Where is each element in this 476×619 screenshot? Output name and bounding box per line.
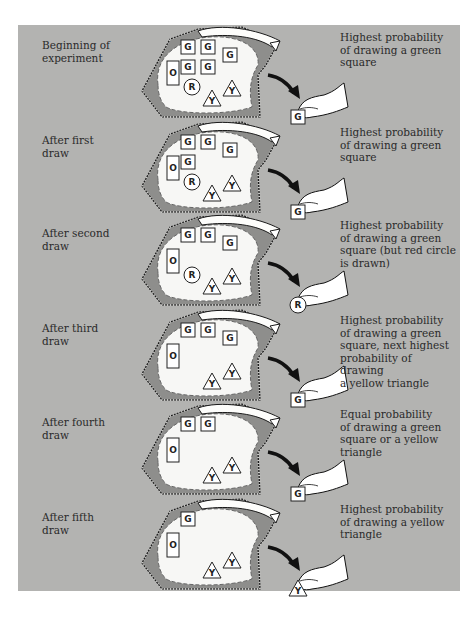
svg-text:G: G bbox=[184, 62, 191, 72]
svg-text:G: G bbox=[184, 514, 191, 524]
probability-description: Highest probabilityof drawing a greensqu… bbox=[340, 219, 458, 269]
description-line: Highest probability bbox=[340, 503, 458, 516]
probability-description: Highest probabilityof drawing a greensqu… bbox=[340, 314, 458, 389]
stage-label-line: Beginning of bbox=[42, 39, 132, 52]
svg-text:G: G bbox=[184, 230, 191, 240]
draw-stage-row-2: After firstdraw GGGGORYYG Highest probab… bbox=[18, 120, 460, 215]
svg-text:G: G bbox=[204, 325, 211, 335]
green-square-token: G bbox=[223, 48, 237, 62]
draw-arrow-icon bbox=[268, 452, 300, 476]
svg-text:O: O bbox=[169, 256, 177, 266]
green-square-token: G bbox=[201, 60, 215, 74]
svg-text:Y: Y bbox=[228, 369, 236, 379]
stage-label-line: draw bbox=[42, 429, 132, 442]
draw-arrow-icon bbox=[268, 358, 300, 382]
orange-rectangle-token: O bbox=[167, 249, 179, 273]
draw-arrow-icon bbox=[268, 263, 300, 287]
orange-rectangle-token: O bbox=[167, 438, 179, 462]
stage-label: After fourthdraw bbox=[42, 416, 132, 441]
bag-illustration: GGGOYYG bbox=[140, 308, 340, 403]
svg-text:G: G bbox=[184, 137, 191, 147]
description-line: square (but red circle bbox=[340, 244, 458, 257]
hand-icon bbox=[298, 271, 348, 306]
green-square-token: G bbox=[223, 236, 237, 250]
svg-text:G: G bbox=[226, 238, 233, 248]
stage-label-line: After second bbox=[42, 227, 132, 240]
draw-stage-row-6: After fifthdraw GOYYY Highest probabilit… bbox=[18, 497, 460, 592]
bag-illustration: GOYYY bbox=[140, 497, 340, 592]
green-square-token: G bbox=[223, 143, 237, 157]
probability-description: Highest probabilityof drawing a greensqu… bbox=[340, 126, 458, 164]
svg-text:Y: Y bbox=[208, 568, 216, 578]
stage-label-line: draw bbox=[42, 524, 132, 537]
svg-text:G: G bbox=[184, 42, 191, 52]
orange-rectangle-token: O bbox=[167, 533, 179, 557]
description-line: of drawing a green bbox=[340, 44, 458, 57]
green-square-token: G bbox=[201, 228, 215, 242]
description-line: Highest probability bbox=[340, 126, 458, 139]
description-line: a yellow triangle bbox=[340, 377, 458, 390]
svg-text:G: G bbox=[226, 145, 233, 155]
description-line: is drawn) bbox=[340, 257, 458, 270]
green-square-token: G bbox=[181, 155, 195, 169]
green-square-token: G bbox=[181, 323, 195, 337]
green-square-token: G bbox=[201, 135, 215, 149]
figure-panel: Beginning ofexperiment GGGGGORYYG Highes… bbox=[18, 25, 460, 591]
svg-text:G: G bbox=[184, 419, 191, 429]
stage-label-line: draw bbox=[42, 335, 132, 348]
description-line: probability of drawing bbox=[340, 352, 458, 377]
svg-text:O: O bbox=[169, 163, 177, 173]
red-circle-token: R bbox=[184, 267, 200, 283]
green-square-token: G bbox=[181, 40, 195, 54]
bag-illustration: GGGORYYR bbox=[140, 213, 340, 308]
red-circle-token: R bbox=[184, 79, 200, 95]
orange-rectangle-token: O bbox=[167, 61, 179, 85]
svg-text:Y: Y bbox=[228, 86, 236, 96]
draw-stage-row-5: After fourthdraw GGOYYG Equal probabilit… bbox=[18, 402, 460, 497]
probability-description: Highest probabilityof drawing a greensqu… bbox=[340, 31, 458, 69]
description-line: square bbox=[340, 151, 458, 164]
green-square-token: G bbox=[181, 228, 195, 242]
description-line: Equal probability bbox=[340, 408, 458, 421]
description-line: of drawing a yellow bbox=[340, 516, 458, 529]
svg-text:O: O bbox=[169, 540, 177, 550]
svg-text:G: G bbox=[204, 230, 211, 240]
bag-illustration: GGGGORYYG bbox=[140, 120, 340, 215]
stage-label: After seconddraw bbox=[42, 227, 132, 252]
stage-label: After fifthdraw bbox=[42, 511, 132, 536]
green-square-token: G bbox=[201, 323, 215, 337]
svg-text:G: G bbox=[204, 137, 211, 147]
description-line: square or a yellow bbox=[340, 433, 458, 446]
stage-label-line: experiment bbox=[42, 52, 132, 65]
svg-text:Y: Y bbox=[228, 463, 236, 473]
draw-stage-row-3: After seconddraw GGGORYYR Highest probab… bbox=[18, 213, 460, 308]
description-line: Highest probability bbox=[340, 31, 458, 44]
green-square-token: G bbox=[181, 512, 195, 526]
stage-label-line: After first bbox=[42, 134, 132, 147]
svg-text:O: O bbox=[169, 351, 177, 361]
description-line: square bbox=[340, 56, 458, 69]
svg-text:Y: Y bbox=[208, 191, 216, 201]
stage-label-line: draw bbox=[42, 240, 132, 253]
svg-text:G: G bbox=[226, 50, 233, 60]
svg-text:Y: Y bbox=[228, 558, 236, 568]
svg-text:Y: Y bbox=[208, 284, 216, 294]
svg-text:Y: Y bbox=[208, 96, 216, 106]
green-square-token: G bbox=[181, 135, 195, 149]
svg-text:G: G bbox=[184, 325, 191, 335]
description-line: of drawing a green bbox=[340, 421, 458, 434]
svg-text:G: G bbox=[204, 419, 211, 429]
stage-label-line: After fifth bbox=[42, 511, 132, 524]
stage-label: After thirddraw bbox=[42, 322, 132, 347]
hand-icon bbox=[298, 555, 348, 590]
draw-stage-row-4: After thirddraw GGGOYYG Highest probabil… bbox=[18, 308, 460, 403]
svg-text:O: O bbox=[169, 445, 177, 455]
svg-text:G: G bbox=[204, 42, 211, 52]
green-square-token: G bbox=[181, 60, 195, 74]
probability-description: Highest probabilityof drawing a yellowtr… bbox=[340, 503, 458, 541]
stage-label: Beginning ofexperiment bbox=[42, 39, 132, 64]
stage-label-line: draw bbox=[42, 147, 132, 160]
probability-description: Equal probabilityof drawing a greensquar… bbox=[340, 408, 458, 458]
description-line: triangle bbox=[340, 528, 458, 541]
svg-text:G: G bbox=[226, 333, 233, 343]
